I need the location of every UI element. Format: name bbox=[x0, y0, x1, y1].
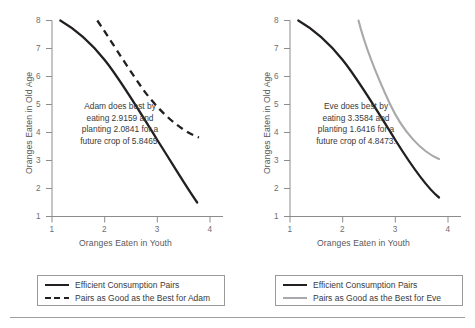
adam-panel: 8 7 6 5 4 3 2 1 1 2 3 4 Oranges Eaten in… bbox=[0, 0, 237, 312]
y-tick-label-2: 2 bbox=[274, 184, 279, 193]
y-tick-marks bbox=[284, 21, 290, 217]
gray-line-swatch-icon bbox=[281, 292, 309, 304]
eve-annotation-line-3: planting 1.6416 for a bbox=[296, 124, 416, 136]
x-tick-marks bbox=[52, 217, 210, 223]
eve-legend-label-efficient: Efficient Consumption Pairs bbox=[309, 280, 417, 290]
eve-panel: 8 7 6 5 4 3 2 1 1 2 3 4 Oranges Eaten in… bbox=[238, 0, 475, 312]
eve-legend-row-indifference[interactable]: Pairs as Good as the Best for Eve bbox=[281, 292, 441, 304]
y-axis-title: Oranges Eaten in Old Age bbox=[262, 72, 272, 174]
y-tick-label-7: 7 bbox=[274, 44, 279, 53]
solid-line-swatch-icon bbox=[281, 279, 309, 291]
adam-annotation-line-2: eating 2.9159 and bbox=[60, 113, 180, 125]
eve-annotation: Eve does best by eating 3.3584 and plant… bbox=[296, 101, 416, 147]
x-tick-label-1: 1 bbox=[50, 225, 55, 234]
adam-legend: Efficient Consumption Pairs Pairs as Goo… bbox=[37, 275, 225, 306]
y-tick-label-7: 7 bbox=[36, 44, 41, 53]
x-tick-label-3: 3 bbox=[393, 225, 398, 234]
eve-annotation-line-1: Eve does best by bbox=[296, 101, 416, 113]
x-tick-label-3: 3 bbox=[155, 225, 160, 234]
x-axis-title: Oranges Eaten in Youth bbox=[317, 238, 410, 248]
adam-annotation-line-4: future crop of 5.8465. bbox=[60, 136, 180, 148]
adam-legend-label-efficient: Efficient Consumption Pairs bbox=[71, 280, 179, 290]
y-tick-label-6: 6 bbox=[36, 72, 41, 81]
solid-line-swatch-icon bbox=[43, 279, 71, 291]
y-tick-label-3: 3 bbox=[36, 156, 41, 165]
adam-annotation-line-1: Adam does best by bbox=[60, 101, 180, 113]
adam-annotation-line-3: planting 2.0841 for a bbox=[60, 124, 180, 136]
x-tick-marks bbox=[290, 217, 448, 223]
y-axis-title: Oranges Eaten in Old Age bbox=[24, 72, 34, 174]
y-tick-label-8: 8 bbox=[274, 16, 279, 25]
eve-legend-row-efficient[interactable]: Efficient Consumption Pairs bbox=[281, 279, 417, 291]
y-tick-label-5: 5 bbox=[274, 100, 279, 109]
y-tick-label-4: 4 bbox=[36, 128, 41, 137]
x-axis-title: Oranges Eaten in Youth bbox=[79, 238, 172, 248]
x-tick-label-4: 4 bbox=[445, 225, 450, 234]
eve-legend-label-indifference: Pairs as Good as the Best for Eve bbox=[309, 293, 441, 303]
y-tick-label-8: 8 bbox=[36, 16, 41, 25]
adam-legend-row-efficient[interactable]: Efficient Consumption Pairs bbox=[43, 279, 179, 291]
x-tick-label-4: 4 bbox=[207, 225, 212, 234]
figure-container: 8 7 6 5 4 3 2 1 1 2 3 4 Oranges Eaten in… bbox=[0, 0, 475, 328]
y-tick-marks bbox=[46, 21, 52, 217]
y-tick-label-1: 1 bbox=[36, 212, 41, 221]
y-tick-label-2: 2 bbox=[36, 184, 41, 193]
y-tick-label-3: 3 bbox=[274, 156, 279, 165]
dashed-line-swatch-icon bbox=[43, 292, 71, 304]
adam-annotation: Adam does best by eating 2.9159 and plan… bbox=[60, 101, 180, 147]
adam-legend-row-indifference[interactable]: Pairs as Good as the Best for Adam bbox=[43, 292, 210, 304]
adam-legend-label-indifference: Pairs as Good as the Best for Adam bbox=[71, 293, 210, 303]
x-tick-label-1: 1 bbox=[288, 225, 293, 234]
y-tick-label-1: 1 bbox=[274, 212, 279, 221]
y-tick-label-6: 6 bbox=[274, 72, 279, 81]
x-tick-label-2: 2 bbox=[340, 225, 345, 234]
y-tick-label-4: 4 bbox=[274, 128, 279, 137]
footer-divider bbox=[10, 317, 465, 318]
eve-annotation-line-2: eating 3.3584 and bbox=[296, 113, 416, 125]
y-tick-label-5: 5 bbox=[36, 100, 41, 109]
x-tick-label-2: 2 bbox=[102, 225, 107, 234]
eve-annotation-line-4: future crop of 4.8473. bbox=[296, 136, 416, 148]
eve-legend: Efficient Consumption Pairs Pairs as Goo… bbox=[275, 275, 463, 306]
